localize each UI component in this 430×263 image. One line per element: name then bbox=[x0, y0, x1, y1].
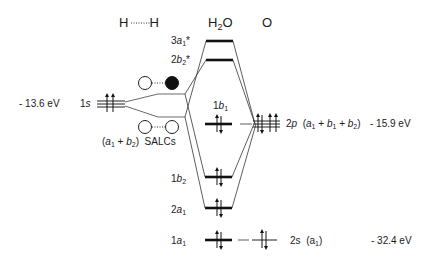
o-2p-plus2: + bbox=[336, 118, 347, 129]
salc-label: (a1 + b2) SALCs bbox=[102, 137, 176, 147]
header-h-h: HH bbox=[119, 16, 159, 29]
salc-connectors bbox=[125, 94, 185, 117]
header-h2o-h: H bbox=[208, 15, 217, 30]
o-2s-close: ) bbox=[319, 235, 322, 246]
mo-label-2a1: 2a1 bbox=[171, 205, 186, 215]
mo-1b1-sub: 1 bbox=[224, 105, 228, 112]
header-o: O bbox=[262, 16, 272, 29]
mo-label-2b2: 2b2* bbox=[171, 55, 190, 65]
h-1s-label: 1s bbox=[80, 99, 91, 109]
header-h2o-o: O bbox=[222, 15, 232, 30]
mo-level-bars bbox=[205, 41, 233, 240]
mo-1a1-sub: 1 bbox=[182, 240, 186, 247]
header-h-left: H bbox=[119, 15, 128, 30]
o-2p-letter: p bbox=[292, 118, 298, 129]
salc-close: ) bbox=[136, 136, 139, 147]
h-1s-letter: s bbox=[86, 98, 91, 109]
o-2s-label: 2s (a1) bbox=[290, 236, 322, 246]
h-1s-energy: - 13.6 eV bbox=[19, 99, 60, 109]
mo-label-1b2: 1b2 bbox=[171, 174, 186, 184]
o-2s-energy: - 32.4 eV bbox=[371, 236, 412, 246]
mo-1b2-sub: 2 bbox=[182, 178, 186, 185]
o-2p-energy: - 15.9 eV bbox=[370, 119, 411, 129]
o-2p-plus1: + bbox=[316, 118, 327, 129]
header-h2o: H2O bbox=[208, 16, 233, 29]
o-2s-text: 2s bbox=[290, 235, 301, 246]
h-1s-level bbox=[97, 101, 125, 107]
header-o-text: O bbox=[262, 15, 272, 30]
mo-2a1-sub: 1 bbox=[182, 209, 186, 216]
mo-diagram bbox=[0, 0, 430, 263]
salc-b2-picture bbox=[139, 77, 179, 90]
salc-text: SALCs bbox=[145, 136, 176, 147]
mo-2b2-star: * bbox=[186, 54, 190, 65]
mo-label-3a1: 3a1* bbox=[171, 36, 190, 46]
o-2p-label: 2p (a1 + b1 + b2) bbox=[286, 119, 361, 129]
salc-a1-picture bbox=[139, 121, 179, 134]
mo-electron-pairs bbox=[217, 116, 221, 248]
salc-plus: + bbox=[115, 136, 126, 147]
mo-3a1-star: * bbox=[186, 35, 190, 46]
mo-label-1a1: 1a1 bbox=[171, 236, 186, 246]
o-2p-close: ) bbox=[357, 118, 360, 129]
mo-label-1b1: 1b1 bbox=[213, 101, 228, 111]
header-h-right: H bbox=[149, 15, 158, 30]
